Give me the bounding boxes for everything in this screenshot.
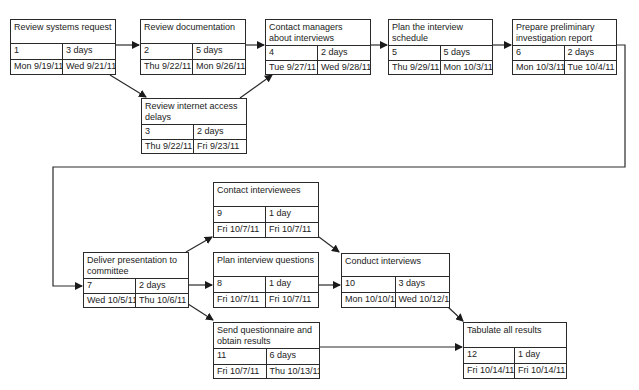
task-node-1: Review systems request 13 days Mon 9/19/… [10, 19, 116, 75]
task-duration: 1 day [515, 348, 566, 363]
task-finish: Fri 10/14/11 [515, 364, 566, 378]
task-finish: Wed 10/12/11 [396, 293, 450, 307]
task-title: Deliver presentation to committee [84, 253, 188, 279]
task-finish: Mon 9/26/11 [193, 60, 245, 74]
task-duration: 2 days [565, 46, 617, 60]
task-finish: Fri 10/7/11 [266, 293, 318, 307]
task-finish: Thu 10/6/11 [136, 294, 188, 307]
task-finish: Fri 10/7/11 [266, 223, 318, 237]
task-start: Mon 9/19/11 [11, 60, 63, 74]
task-duration: 1 day [266, 277, 318, 292]
task-id: 2 [141, 44, 193, 59]
task-id: 12 [464, 348, 515, 363]
task-node-6: Prepare preliminary investigation report… [512, 19, 617, 75]
task-title: Review internet access delays [142, 99, 246, 125]
task-start: Tue 9/27/11 [266, 61, 318, 74]
task-duration: 5 days [193, 44, 245, 59]
task-node-3: Review internet access delays 32 days Th… [141, 98, 247, 154]
task-node-11: Send questionnaire and obtain results 11… [213, 322, 320, 379]
task-start: Thu 9/29/11 [389, 61, 441, 74]
task-finish: Tue 10/4/11 [565, 61, 617, 74]
task-start: Mon 10/10/11 [342, 293, 396, 307]
task-node-12: Tabulate all results 121 day Fri 10/14/1… [463, 322, 567, 379]
edge-10-12 [448, 307, 463, 321]
edge-1-3 [110, 75, 146, 97]
task-duration: 3 days [396, 277, 450, 292]
task-id: 4 [266, 46, 318, 60]
task-title: Review documentation [141, 20, 245, 44]
task-node-9: Contact interviewees 91 day Fri 10/7/11F… [213, 182, 319, 238]
task-title: Contact managers about interviews [266, 20, 370, 46]
task-duration: 2 days [318, 46, 370, 60]
task-id: 10 [342, 277, 396, 292]
task-start: Mon 10/3/11 [513, 61, 565, 74]
task-duration: 2 days [194, 125, 246, 139]
task-duration: 3 days [63, 44, 115, 59]
task-node-2: Review documentation 25 days Thu 9/22/11… [140, 19, 246, 75]
task-id: 11 [214, 349, 267, 363]
task-node-5: Plan the interview schedule 55 days Thu … [388, 19, 493, 75]
task-id: 8 [214, 277, 266, 292]
task-node-7: Deliver presentation to committee 72 day… [83, 252, 189, 308]
task-id: 3 [142, 125, 194, 139]
edge-7-9 [186, 237, 212, 252]
task-start: Fri 10/14/11 [464, 364, 515, 378]
task-id: 6 [513, 46, 565, 60]
task-title: Prepare preliminary investigation report [513, 20, 616, 46]
task-id: 7 [84, 279, 136, 293]
task-id: 5 [389, 46, 441, 60]
task-node-8: Plan interview questions 81 day Fri 10/7… [213, 252, 319, 308]
edge-9-10 [319, 237, 339, 252]
task-finish: Mon 10/3/11 [441, 61, 493, 74]
task-node-10: Conduct interviews 103 days Mon 10/10/11… [341, 253, 450, 308]
edge-3-4 [240, 75, 272, 98]
task-title: Conduct interviews [342, 254, 449, 277]
task-start: Fri 10/7/11 [214, 365, 267, 378]
task-start: Wed 10/5/11 [84, 294, 136, 307]
task-start: Thu 9/22/11 [141, 60, 193, 74]
task-title: Plan interview questions [214, 253, 318, 277]
task-duration: 6 days [267, 349, 320, 363]
edge-7-11 [185, 302, 213, 320]
task-start: Thu 9/22/11 [142, 140, 194, 153]
task-duration: 5 days [441, 46, 493, 60]
task-id: 1 [11, 44, 63, 59]
task-finish: Thu 10/13/11 [267, 365, 320, 378]
task-finish: Wed 9/21/11 [63, 60, 115, 74]
task-duration: 2 days [136, 279, 188, 293]
task-title: Plan the interview schedule [389, 20, 492, 46]
task-finish: Wed 9/28/11 [318, 61, 370, 74]
task-node-4: Contact managers about interviews 42 day… [265, 19, 371, 75]
task-title: Tabulate all results [464, 323, 566, 348]
task-finish: Fri 9/23/11 [194, 140, 246, 153]
task-title: Send questionnaire and obtain results [214, 323, 319, 349]
task-id: 9 [214, 207, 266, 222]
task-title: Review systems request [11, 20, 115, 44]
task-duration: 1 day [266, 207, 318, 222]
task-start: Fri 10/7/11 [214, 293, 266, 307]
edge-6-7 [53, 45, 625, 286]
task-title: Contact interviewees [214, 183, 318, 207]
task-start: Fri 10/7/11 [214, 223, 266, 237]
